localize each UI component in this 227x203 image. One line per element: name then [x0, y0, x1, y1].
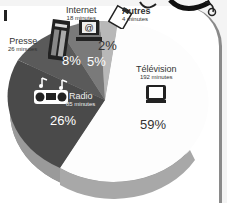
label-television: Télévision 192 minutes	[136, 65, 177, 81]
label-presse: Presse 26 minutes	[8, 37, 37, 53]
internet-name: Internet	[66, 6, 97, 15]
tv-icon	[145, 84, 167, 104]
autres-percent: 2%	[98, 38, 117, 53]
television-percent: 59%	[140, 117, 166, 132]
autres-minutes: 4 minutes	[122, 16, 151, 22]
internet-minutes: 18 minutes	[66, 15, 97, 21]
presse-minutes: 26 minutes	[8, 46, 37, 52]
radio-percent: 26%	[50, 113, 76, 128]
internet-percent: 5%	[87, 54, 106, 69]
presse-percent: 8%	[62, 53, 81, 68]
label-radio: Radio 85 minutes	[66, 92, 95, 108]
radio-name: Radio	[66, 92, 95, 101]
autres-name: Autres	[122, 7, 151, 16]
svg-text:@: @	[84, 23, 93, 33]
label-autres: Autres 4 minutes	[122, 7, 151, 23]
label-internet: Internet 18 minutes	[66, 6, 97, 22]
chart-frame: @ Presse 26 minutes Internet 18 minutes …	[0, 0, 227, 203]
radio-minutes: 85 minutes	[66, 101, 95, 107]
presse-name: Presse	[8, 37, 37, 46]
television-name: Télévision	[136, 65, 177, 74]
television-minutes: 192 minutes	[136, 74, 177, 80]
